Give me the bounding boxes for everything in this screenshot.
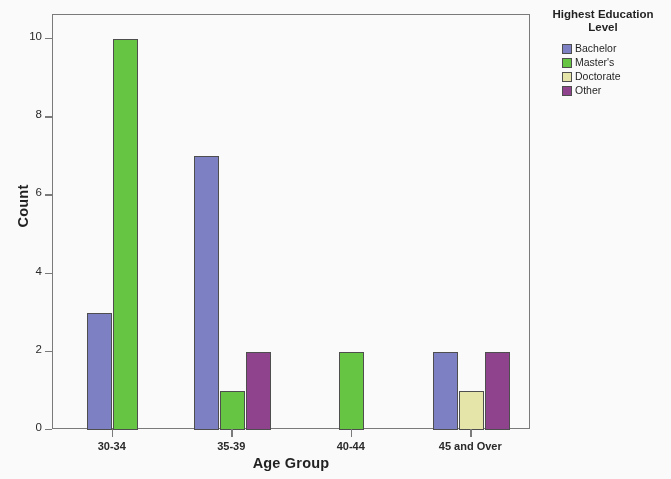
legend-items: BachelorMaster'sDoctorateOther: [562, 42, 668, 97]
y-tick: 6: [0, 194, 52, 195]
y-tick-label: 0: [36, 421, 42, 433]
bar-doctorate-45-and-over: [459, 391, 484, 430]
plot-area: [52, 14, 530, 429]
x-tick-mark: [112, 429, 113, 437]
legend-swatch-icon: [562, 58, 572, 68]
y-tick: 4: [0, 273, 52, 274]
y-tick-label: 2: [36, 343, 42, 355]
bar-bachelor-45-and-over: [433, 352, 458, 430]
y-tick: 0: [0, 429, 52, 430]
x-tick-mark: [351, 429, 352, 437]
legend-item-other: Other: [562, 84, 668, 97]
legend: Highest Education Level BachelorMaster's…: [540, 8, 668, 98]
y-tick-label: 6: [36, 186, 42, 198]
bar-master-s-30-34: [113, 39, 138, 430]
y-tick-label: 8: [36, 108, 42, 120]
y-tick-mark: [45, 429, 52, 430]
legend-item-bachelor: Bachelor: [562, 42, 668, 55]
bar-bachelor-35-39: [194, 156, 219, 430]
x-tick-label: 45 and Over: [439, 440, 502, 452]
bar-other-35-39: [246, 352, 271, 430]
bar-master-s-40-44: [339, 352, 364, 430]
bar-other-45-and-over: [485, 352, 510, 430]
legend-item-label: Other: [575, 85, 601, 96]
y-tick-label: 4: [36, 265, 42, 277]
bar-master-s-35-39: [220, 391, 245, 430]
legend-swatch-icon: [562, 86, 572, 96]
bar-bachelor-30-34: [87, 313, 112, 430]
x-tick-mark: [231, 429, 232, 437]
x-axis-title: Age Group: [52, 455, 530, 471]
x-tick-label: 30-34: [98, 440, 126, 452]
legend-swatch-icon: [562, 72, 572, 82]
x-tick-label: 35-39: [217, 440, 245, 452]
legend-item-label: Bachelor: [575, 43, 616, 54]
y-tick-mark: [45, 194, 52, 195]
legend-title-line-1: Highest Education: [540, 8, 666, 21]
y-tick-label: 10: [29, 30, 42, 42]
y-tick: 2: [0, 351, 52, 352]
legend-item-master-s: Master's: [562, 56, 668, 69]
legend-title: Highest Education Level: [540, 8, 666, 34]
y-tick-mark: [45, 38, 52, 39]
y-tick-mark: [45, 116, 52, 117]
y-axis-title: Count: [15, 161, 31, 251]
legend-swatch-icon: [562, 44, 572, 54]
y-tick-mark: [45, 351, 52, 352]
legend-item-doctorate: Doctorate: [562, 70, 668, 83]
y-tick: 8: [0, 116, 52, 117]
legend-item-label: Doctorate: [575, 71, 621, 82]
y-tick: 10: [0, 38, 52, 39]
y-tick-mark: [45, 273, 52, 274]
x-tick-mark: [470, 429, 471, 437]
legend-title-line-2: Level: [540, 21, 666, 34]
x-tick-label: 40-44: [337, 440, 365, 452]
legend-item-label: Master's: [575, 57, 614, 68]
bar-chart-figure: Count 0246810 30-3435-3940-4445 and Over…: [0, 0, 671, 479]
